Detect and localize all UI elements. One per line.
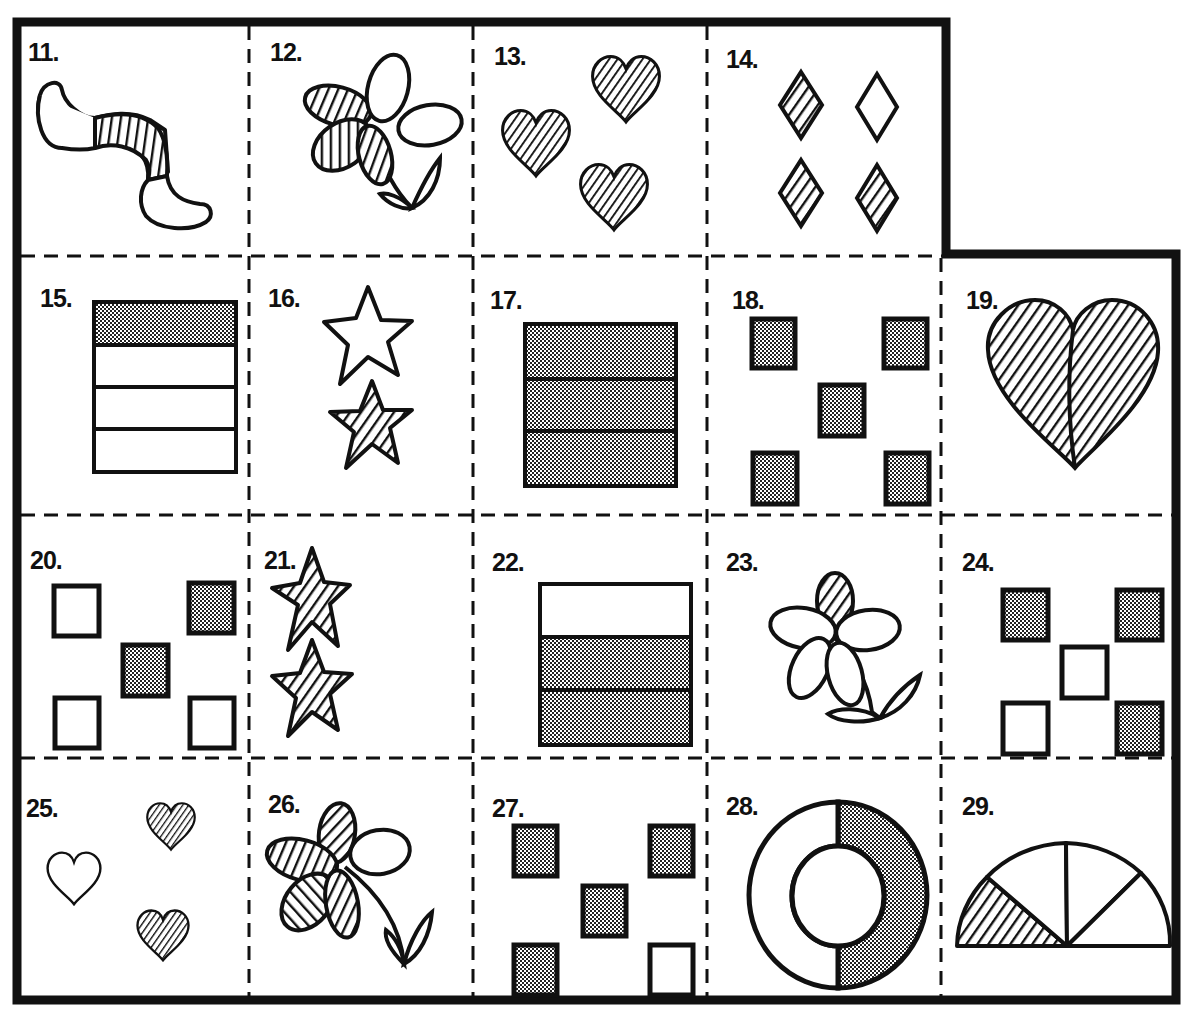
flower-shape (262, 801, 432, 964)
cell-number-16: 16. (268, 284, 300, 313)
cell-number-18: 18. (732, 286, 764, 315)
hearts-group (48, 803, 195, 960)
squares-group (1003, 590, 1162, 754)
cell-number-23: 23. (726, 548, 758, 577)
stars-group (324, 287, 412, 468)
hearts-group (503, 57, 660, 230)
squares-group (54, 583, 234, 748)
cell-number-29: 29. (962, 792, 994, 821)
cell-number-14: 14. (726, 45, 758, 74)
rectangle-3-bands (540, 584, 691, 745)
stars-group (272, 548, 352, 736)
cell-number-15: 15. (40, 284, 72, 313)
worm-shape (38, 83, 211, 228)
cell-number-28: 28. (726, 792, 758, 821)
cell-number-20: 20. (30, 546, 62, 575)
ring-shape (749, 802, 927, 988)
cell-number-24: 24. (962, 548, 994, 577)
cell-number-27: 27. (492, 794, 524, 823)
flower-shape (767, 573, 920, 721)
semicircle-shape (957, 843, 1170, 946)
squares-group (752, 319, 929, 504)
cell-number-13: 13. (494, 42, 526, 71)
cell-number-12: 12. (270, 38, 302, 67)
diamonds-group (780, 72, 897, 231)
cell-number-22: 22. (492, 548, 524, 577)
cell-number-11: 11. (28, 38, 58, 67)
rectangle-4-bands (94, 302, 236, 472)
cell-number-26: 26. (268, 790, 300, 819)
cell-number-21: 21. (264, 546, 296, 575)
rectangle-3-bands (525, 324, 676, 486)
fractions-worksheet (0, 0, 1189, 1020)
cell-number-19: 19. (966, 286, 998, 315)
big-heart-shape (988, 300, 1158, 468)
cell-number-17: 17. (490, 286, 522, 315)
cell-number-25: 25. (26, 794, 58, 823)
flower-shape (300, 50, 465, 208)
squares-group (514, 826, 693, 995)
